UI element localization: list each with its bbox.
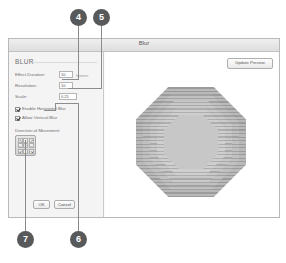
preview-canvas[interactable] (107, 71, 275, 213)
leader-line-6-stub-horizontal (44, 110, 56, 111)
direction-of-movement-label: Direction of Movement: (15, 128, 60, 133)
cancel-button[interactable]: Cancel (54, 200, 75, 209)
octagon-graphic (136, 87, 246, 197)
direction-cell-right[interactable]: → (29, 143, 34, 148)
window-titlebar[interactable]: Blur (9, 39, 279, 52)
ok-button[interactable]: OK (33, 200, 50, 209)
window-title: Blur (9, 40, 279, 46)
leader-line-4-horizontal (62, 79, 79, 80)
direction-cell-left[interactable]: ← (18, 143, 23, 148)
octagon-ring-5 (164, 115, 219, 170)
panel-heading: BLUR (15, 58, 34, 65)
direction-cell-down-left[interactable]: ↙ (18, 149, 23, 154)
dialog-button-bar: OK Cancel (33, 200, 75, 209)
vertical-blur-label: Allow Vertical Blur (22, 115, 57, 120)
effect-duration-input[interactable]: 10 (59, 71, 73, 78)
effect-duration-label: Effect Duration: (15, 72, 45, 77)
preview-area: Update Preview (105, 52, 279, 217)
leader-line-7 (25, 140, 26, 231)
direction-cell-up-right[interactable]: ↗ (29, 138, 34, 143)
callout-7: 7 (17, 231, 34, 248)
scale-input[interactable]: 0.25 (59, 93, 77, 100)
direction-cell-down-right[interactable]: ↘ (29, 149, 34, 154)
dialog-body: BLUR Effect Duration: 10 frames Resoluti… (9, 52, 279, 217)
leader-line-4 (78, 26, 79, 80)
controls-panel: BLUR Effect Duration: 10 frames Resoluti… (9, 52, 104, 217)
leader-line-6-horizontal (55, 103, 79, 104)
callout-4: 4 (70, 9, 87, 26)
leader-line-6 (78, 103, 79, 231)
leader-line-5-horizontal (68, 88, 102, 89)
horizontal-blur-checkbox[interactable] (15, 107, 20, 112)
direction-cell-up-left[interactable]: ↖ (18, 138, 23, 143)
callout-5: 5 (93, 9, 110, 26)
field-row-effect-duration: Effect Duration: 10 frames (15, 72, 101, 80)
vertical-blur-checkbox[interactable] (15, 116, 20, 121)
update-preview-button[interactable]: Update Preview (227, 58, 273, 69)
top-fade-overlay (0, 0, 286, 30)
leader-line-5 (101, 26, 102, 89)
field-row-scale: Scale: 0.25 (15, 94, 101, 102)
blur-dialog-window: Blur BLUR Effect Duration: 10 frames Res… (8, 38, 280, 218)
panel-heading-rule (33, 62, 97, 63)
callout-6: 6 (70, 231, 87, 248)
resolution-label: Resolution: (15, 83, 37, 88)
scale-label: Scale: (15, 94, 27, 99)
field-row-resolution: Resolution: 10 (15, 83, 101, 91)
